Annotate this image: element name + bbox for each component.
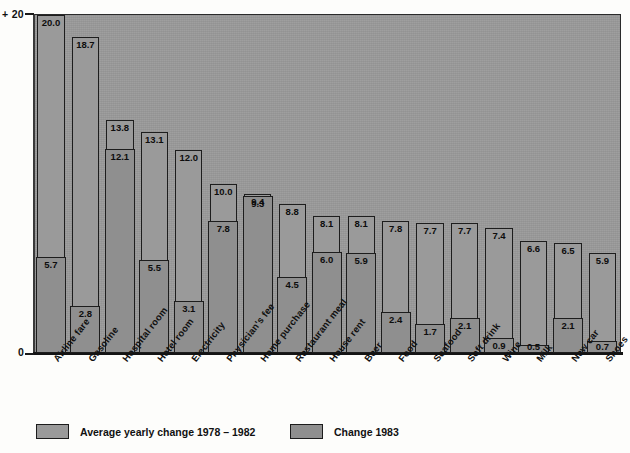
bar-value-change-1983: 5.7 xyxy=(37,259,64,270)
bar-value-change-1983: 5.9 xyxy=(348,255,375,266)
bar-value-change-1983: 3.1 xyxy=(175,303,202,314)
y-axis-label-zero: 0 xyxy=(18,346,24,358)
bar-value-average: 6.6 xyxy=(520,243,547,254)
bar-wine: 7.40.9 xyxy=(485,15,512,353)
bar-value-change-1983: 2.1 xyxy=(554,320,581,331)
legend-item-change-1983: Change 1983 xyxy=(290,424,399,439)
bar-beer: 8.15.9 xyxy=(348,15,375,353)
bar-value-average: 7.8 xyxy=(382,223,409,234)
bar-shoes: 5.90.7 xyxy=(589,15,616,353)
x-axis-category-labels: Airline fareGasolineHospital roomHotel r… xyxy=(34,357,620,415)
legend-label-average: Average yearly change 1978 – 1982 xyxy=(80,426,255,438)
bar-physician-s-fee: 10.07.8 xyxy=(210,15,237,353)
bar-airline-fare: 20.05.7 xyxy=(37,15,64,353)
bar-value-change-1983: 5.5 xyxy=(141,262,168,273)
y-axis-label-top: + 20 xyxy=(2,8,24,20)
bar-value-average: 8.1 xyxy=(348,218,375,229)
bar-value-average: 5.9 xyxy=(589,255,616,266)
y-axis-tick-0 xyxy=(25,353,34,355)
bar-value-average: 6.5 xyxy=(554,245,581,256)
bar-value-average: 10.0 xyxy=(210,186,237,197)
bar-value-average: 7.4 xyxy=(485,230,512,241)
bar-value-change-1983: 1.7 xyxy=(416,326,443,337)
bar-milk: 6.60.5 xyxy=(520,15,547,353)
bar-hotel-room: 13.15.5 xyxy=(141,15,168,353)
bar-segment-change-1983 xyxy=(105,149,135,353)
chart-legend: Average yearly change 1978 – 1982 Change… xyxy=(0,424,627,450)
bar-segment-average xyxy=(520,241,547,353)
bar-value-change-1983: 9.3 xyxy=(244,198,271,209)
bar-value-average: 7.7 xyxy=(416,225,443,236)
bar-value-change-1983: 6.0 xyxy=(313,254,340,265)
legend-item-average: Average yearly change 1978 – 1982 xyxy=(36,424,255,439)
bar-value-average: 8.1 xyxy=(313,218,340,229)
bar-value-change-1983: 4.5 xyxy=(279,279,306,290)
bar-value-average: 18.7 xyxy=(72,39,99,50)
bar-value-average: 8.8 xyxy=(279,206,306,217)
bar-value-change-1983: 12.1 xyxy=(106,151,133,162)
bar-hospital-room: 13.812.1 xyxy=(106,15,133,353)
bar-group: 20.05.718.72.813.812.113.15.512.03.110.0… xyxy=(34,15,620,353)
bar-gasoline: 18.72.8 xyxy=(72,15,99,353)
y-axis-tick-20 xyxy=(25,13,34,15)
bar-electricity: 12.03.1 xyxy=(175,15,202,353)
legend-swatch-change-1983-icon xyxy=(290,424,323,439)
bar-segment-change-1983 xyxy=(36,257,66,353)
bar-soft-drink: 7.72.1 xyxy=(451,15,478,353)
bar-seafood: 7.71.7 xyxy=(416,15,443,353)
bar-value-average: 13.1 xyxy=(141,134,168,145)
bar-value-average: 12.0 xyxy=(175,152,202,163)
bar-value-change-1983: 7.8 xyxy=(210,223,237,234)
legend-swatch-average-icon xyxy=(36,424,69,439)
bar-value-average: 13.8 xyxy=(106,122,133,133)
bar-new-car: 6.52.1 xyxy=(554,15,581,353)
bar-value-change-1983: 2.4 xyxy=(382,314,409,325)
bar-value-average: 20.0 xyxy=(37,17,64,28)
legend-label-change-1983: Change 1983 xyxy=(334,426,399,438)
bar-food: 7.82.4 xyxy=(382,15,409,353)
bar-value-average: 7.7 xyxy=(451,225,478,236)
